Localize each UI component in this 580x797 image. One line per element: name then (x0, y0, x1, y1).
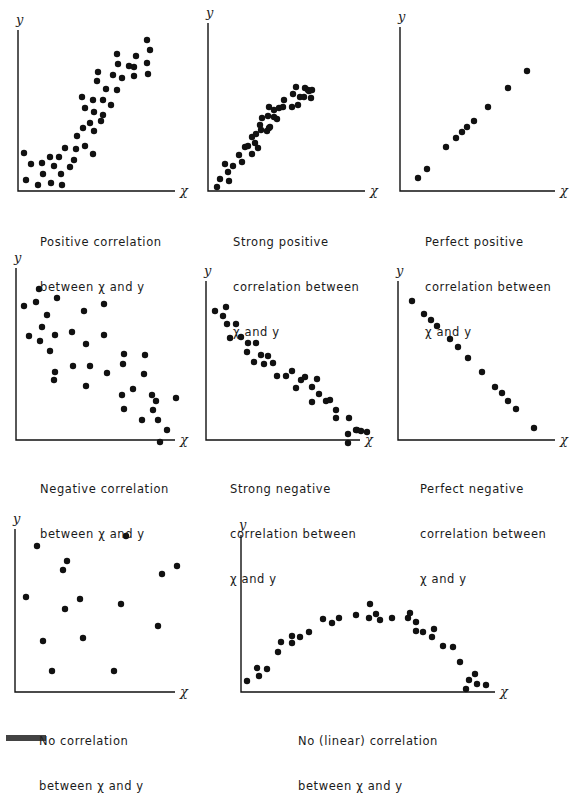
data-point (306, 629, 312, 635)
data-point (87, 363, 93, 369)
data-point (239, 159, 245, 165)
data-point (21, 303, 27, 309)
data-point (245, 143, 251, 149)
data-point (353, 612, 359, 618)
data-point (121, 351, 127, 357)
data-point (409, 298, 415, 304)
data-point (345, 431, 351, 437)
data-point (157, 439, 163, 445)
data-point (223, 304, 229, 310)
data-point (121, 406, 127, 412)
data-point (73, 146, 79, 152)
data-point (131, 64, 137, 70)
y-axis-label: y (13, 250, 22, 265)
data-point (453, 135, 459, 141)
data-point (26, 333, 32, 339)
data-point (492, 384, 498, 390)
data-point (98, 118, 104, 124)
data-point (293, 385, 299, 391)
data-point (278, 639, 284, 645)
axes-lines (400, 27, 555, 191)
data-point (130, 386, 136, 392)
y-axis-label: y (397, 9, 406, 24)
x-axis-label: χ (559, 432, 569, 447)
x-axis-label: χ (179, 684, 189, 699)
data-point (256, 673, 262, 679)
data-point (114, 87, 120, 93)
data-point (261, 361, 267, 367)
data-point (119, 75, 125, 81)
data-point (281, 97, 287, 103)
data-point (104, 370, 110, 376)
data-point (457, 659, 463, 665)
data-point (103, 86, 109, 92)
data-point (220, 313, 226, 319)
data-point (377, 617, 383, 623)
data-point (225, 169, 231, 175)
data-point (293, 84, 299, 90)
data-point (253, 131, 259, 137)
data-point (251, 359, 257, 365)
data-point (139, 417, 145, 423)
data-point (333, 407, 339, 413)
data-point (258, 127, 264, 133)
data-point (77, 596, 83, 602)
data-point (413, 628, 419, 634)
data-point (464, 124, 470, 130)
data-point (459, 129, 465, 135)
data-point (155, 623, 161, 629)
data-point (429, 634, 435, 640)
data-point (513, 406, 519, 412)
data-point (119, 392, 125, 398)
data-point (217, 176, 223, 182)
data-point (336, 615, 342, 621)
data-point (100, 112, 106, 118)
data-point (108, 102, 114, 108)
data-point (91, 128, 97, 134)
data-point (479, 369, 485, 375)
data-point (295, 102, 301, 108)
data-point (60, 567, 66, 573)
data-point (244, 678, 250, 684)
data-point (144, 60, 150, 66)
data-point (212, 308, 218, 314)
data-point (483, 682, 489, 688)
data-point (309, 399, 315, 405)
data-point (309, 384, 315, 390)
figure-label-fragment (6, 735, 46, 741)
data-point (474, 681, 480, 687)
data-point (259, 115, 265, 121)
y-axis-label: y (15, 12, 24, 27)
data-point (174, 563, 180, 569)
data-point (82, 105, 88, 111)
data-point (71, 157, 77, 163)
data-point (389, 615, 395, 621)
data-point (524, 68, 530, 74)
data-point (346, 415, 352, 421)
data-point (367, 601, 373, 607)
data-point (110, 72, 116, 78)
data-point (465, 355, 471, 361)
data-point (33, 299, 39, 305)
data-point (230, 163, 236, 169)
data-point (47, 154, 53, 160)
data-point (159, 571, 165, 577)
caption-perfect-negative: Perfect negative correlation between χ a… (420, 452, 547, 602)
data-point (114, 51, 120, 57)
caption-perfect-positive: Perfect positive correlation between χ a… (425, 205, 552, 355)
caption-strong-positive: Strong positive correlation between χ an… (233, 205, 360, 355)
data-point (90, 151, 96, 157)
data-point (320, 616, 326, 622)
data-point (21, 150, 27, 156)
y-axis-label: y (205, 5, 214, 20)
scatter-panel-strong-positive: yχ (205, 5, 379, 198)
data-point (164, 427, 170, 433)
scatter-panel-perfect-positive: yχ (397, 9, 569, 198)
data-point (366, 615, 372, 621)
data-point (314, 376, 320, 382)
data-point (420, 629, 426, 635)
data-point (79, 94, 85, 100)
data-point (48, 180, 54, 186)
data-point (236, 152, 242, 158)
data-point (131, 73, 137, 79)
